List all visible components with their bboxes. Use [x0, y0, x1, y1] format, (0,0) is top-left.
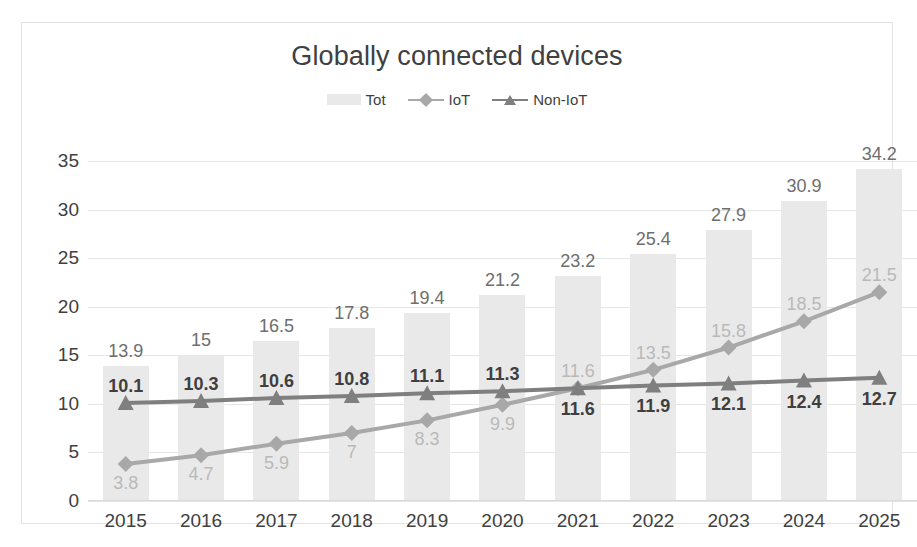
data-label-iot: 8.3	[415, 429, 440, 450]
data-label-non-iot: 10.3	[184, 374, 219, 395]
plot-area: 05101520253035 2015201620172018201920202…	[88, 161, 917, 501]
legend-item-non-iot[interactable]: Non-IoT	[492, 91, 587, 108]
data-label-tot: 13.9	[108, 341, 143, 362]
data-label-iot: 3.8	[113, 473, 138, 494]
data-label-non-iot: 11.9	[636, 396, 670, 417]
x-axis-tick-label: 2020	[481, 510, 523, 532]
x-axis-tick-label: 2019	[406, 510, 448, 532]
data-label-tot: 17.8	[334, 303, 369, 324]
legend-label-iot: IoT	[449, 91, 471, 108]
data-label-tot: 19.4	[410, 288, 445, 309]
data-label-non-iot: 10.6	[259, 371, 294, 392]
data-label-iot: 21.5	[862, 265, 897, 286]
data-label-tot: 15	[191, 330, 211, 351]
y-axis-tick-label: 20	[58, 296, 79, 318]
data-label-non-iot: 10.1	[108, 376, 143, 397]
x-axis-tick-label: 2015	[105, 510, 147, 532]
data-label-non-iot: 12.4	[786, 392, 821, 413]
data-label-iot: 7	[347, 442, 357, 463]
data-label-non-iot: 12.1	[711, 394, 746, 415]
data-label-tot: 27.9	[711, 205, 746, 226]
data-label-tot: 23.2	[560, 251, 595, 272]
chart-container: Globally connected devices Tot IoT Non-I…	[21, 22, 893, 524]
y-axis-tick-label: 10	[58, 393, 79, 415]
data-label-non-iot: 12.7	[862, 389, 897, 410]
iot-marker[interactable]	[721, 340, 737, 356]
iot-marker[interactable]	[796, 313, 812, 329]
legend-line-diamond-icon	[408, 94, 444, 106]
y-axis-tick-label: 15	[58, 344, 79, 366]
legend-item-tot[interactable]: Tot	[327, 91, 386, 108]
data-label-iot: 9.9	[490, 414, 515, 435]
x-axis-tick-label: 2018	[331, 510, 373, 532]
data-label-tot: 25.4	[636, 229, 671, 250]
legend-line-triangle-icon	[492, 94, 528, 106]
iot-marker[interactable]	[344, 425, 360, 441]
x-axis-tick-label: 2021	[557, 510, 599, 532]
y-axis-tick-label: 25	[58, 247, 79, 269]
iot-marker[interactable]	[193, 447, 209, 463]
x-axis-tick-label: 2016	[180, 510, 222, 532]
data-label-tot: 30.9	[786, 176, 821, 197]
x-axis-tick-label: 2025	[858, 510, 900, 532]
data-label-iot: 18.5	[786, 294, 821, 315]
axis-baseline	[88, 500, 917, 501]
data-label-iot: 5.9	[264, 453, 289, 474]
data-label-iot: 13.5	[636, 343, 671, 364]
x-axis-tick-label: 2023	[707, 510, 749, 532]
x-axis-tick-label: 2024	[783, 510, 825, 532]
y-axis-tick-label: 5	[68, 441, 79, 463]
data-label-iot: 4.7	[189, 464, 214, 485]
iot-marker[interactable]	[871, 284, 887, 300]
data-label-non-iot: 10.8	[334, 369, 369, 390]
line-series-layer	[88, 161, 917, 501]
gridline	[88, 501, 917, 502]
chart-legend: Tot IoT Non-IoT	[22, 91, 892, 108]
y-axis-tick-label: 30	[58, 199, 79, 221]
y-axis-tick-label: 0	[68, 490, 79, 512]
data-label-tot: 21.2	[485, 270, 520, 291]
x-axis-tick-label: 2022	[632, 510, 674, 532]
data-label-non-iot: 11.3	[485, 364, 519, 385]
iot-marker[interactable]	[645, 362, 661, 378]
data-label-iot: 15.8	[711, 321, 746, 342]
legend-item-iot[interactable]: IoT	[408, 91, 471, 108]
legend-label-non-iot: Non-IoT	[533, 91, 587, 108]
data-label-non-iot: 11.1	[410, 366, 444, 387]
chart-title: Globally connected devices	[22, 41, 892, 72]
iot-marker[interactable]	[268, 436, 284, 452]
iot-marker[interactable]	[419, 412, 435, 428]
iot-marker[interactable]	[495, 397, 511, 413]
data-label-tot: 34.2	[862, 144, 897, 165]
data-label-iot: 11.6	[561, 361, 595, 382]
legend-label-tot: Tot	[366, 91, 386, 108]
data-label-tot: 16.5	[259, 316, 294, 337]
legend-swatch-icon	[327, 94, 361, 105]
iot-marker[interactable]	[118, 456, 134, 472]
y-axis-tick-label: 35	[58, 150, 79, 172]
data-label-non-iot: 11.6	[561, 399, 595, 420]
x-axis-tick-label: 2017	[255, 510, 297, 532]
